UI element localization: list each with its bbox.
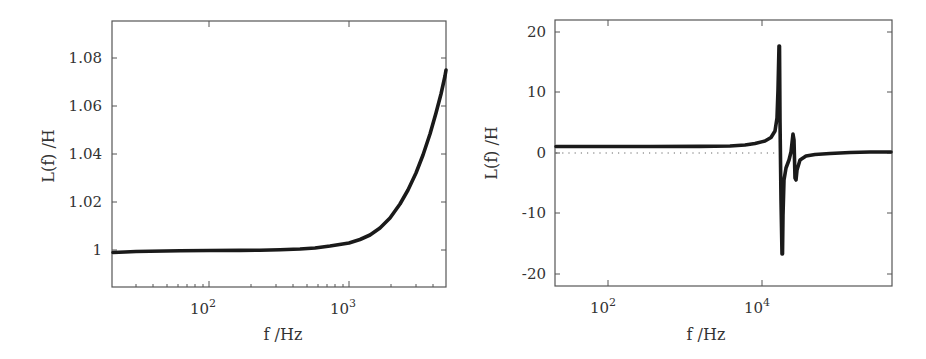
svg-text:-10: -10: [522, 204, 546, 222]
left-chart: 1 1.02 1.04 1.06 1.08 102 103 f /Hz L(f)…: [39, 21, 446, 344]
left-plot-frame: [112, 21, 446, 287]
svg-text:1.04: 1.04: [69, 145, 102, 163]
svg-text:102: 102: [190, 297, 216, 318]
right-y-tick-labels: 20 10 0 -10 -20: [522, 23, 546, 283]
right-y-axis-label: L(f) /H: [482, 126, 501, 180]
svg-text:103: 103: [330, 297, 356, 318]
svg-text:1.06: 1.06: [69, 97, 102, 115]
svg-text:1: 1: [92, 241, 102, 259]
left-x-axis-label: f /Hz: [264, 325, 303, 344]
svg-text:102: 102: [590, 296, 616, 317]
left-y-axis-label: L(f) /H: [39, 129, 58, 183]
svg-text:1.08: 1.08: [69, 49, 102, 67]
left-x-ticks: [136, 21, 433, 287]
svg-text:0: 0: [536, 144, 546, 162]
right-x-axis-label: f /Hz: [687, 325, 726, 344]
svg-text:1.02: 1.02: [69, 193, 102, 211]
svg-text:-20: -20: [522, 265, 546, 283]
left-y-ticks: [112, 58, 446, 250]
left-x-tick-labels: 102 103: [190, 297, 356, 318]
figure: 1 1.02 1.04 1.06 1.08 102 103 f /Hz L(f)…: [0, 0, 926, 359]
svg-text:104: 104: [744, 296, 770, 317]
left-y-tick-labels: 1 1.02 1.04 1.06 1.08: [69, 49, 102, 259]
left-series-line: [113, 70, 446, 253]
right-series-line: [556, 46, 891, 254]
right-x-tick-labels: 102 104: [590, 296, 770, 317]
right-chart: 20 10 0 -10 -20 102 104 f /Hz L(f) /H: [482, 20, 892, 344]
svg-text:10: 10: [527, 83, 546, 101]
svg-text:20: 20: [527, 23, 546, 41]
